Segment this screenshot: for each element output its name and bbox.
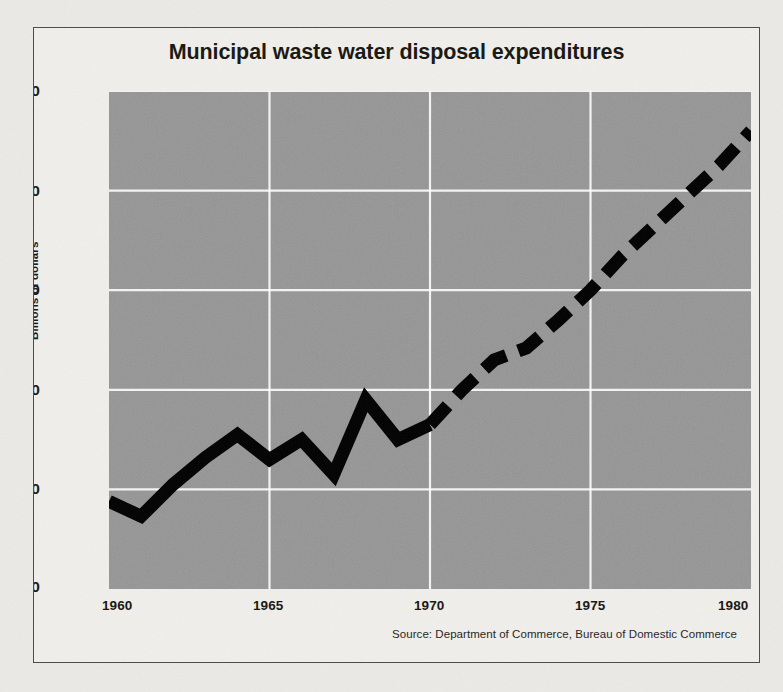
chart-title: Municipal waste water disposal expenditu… (34, 40, 759, 65)
y-tick-label-3: 3.0 (33, 281, 40, 299)
plot-area (109, 91, 751, 589)
x-tick-label-1975: 1975 (575, 598, 605, 613)
figure-frame: Municipal waste water disposal expenditu… (33, 27, 760, 663)
y-tick-label-4: 4.0 (33, 182, 40, 200)
x-tick-label-1960: 1960 (102, 598, 132, 613)
x-tick-label-1965: 1965 (253, 598, 283, 613)
y-tick-label-5: 5.0 (33, 82, 40, 100)
x-tick-label-1970: 1970 (414, 598, 444, 613)
chart-plot-svg (109, 91, 751, 589)
x-tick-label-1980: 1980 (718, 598, 748, 613)
y-tick-label-0: 0 (33, 578, 40, 596)
y-tick-label-1: 1.0 (33, 480, 40, 498)
source-note: Source: Department of Commerce, Bureau o… (392, 628, 737, 640)
y-tick-label-2: 2.0 (33, 381, 40, 399)
